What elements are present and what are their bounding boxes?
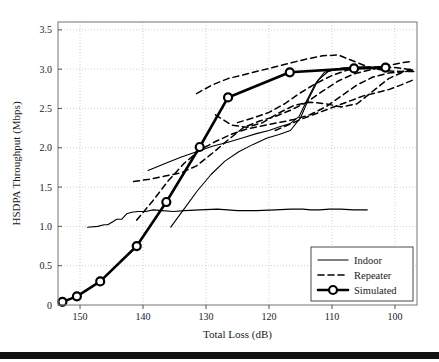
x-tick-label: 130 [199, 311, 214, 322]
page-bottom-rule [0, 352, 439, 359]
data-point-marker [196, 143, 204, 151]
legend-label-indoor: Indoor [354, 255, 382, 266]
data-point-marker [133, 242, 141, 250]
y-tick-label: 3.0 [40, 64, 53, 75]
data-point-marker [286, 68, 294, 76]
y-axis-title: HSDPA Throughput (Mbps) [10, 101, 23, 225]
x-tick-label: 110 [325, 311, 340, 322]
data-point-marker [382, 64, 390, 72]
hsdpa-throughput-chart: 15014013012011010000.51.01.52.02.53.03.5… [0, 0, 439, 362]
y-tick-label: 3.5 [40, 24, 53, 35]
x-tick-label: 120 [261, 311, 276, 322]
figure-container: 15014013012011010000.51.01.52.02.53.03.5… [0, 0, 439, 362]
data-point-marker [162, 198, 170, 206]
y-tick-label: 1.0 [40, 221, 53, 232]
x-tick-label: 150 [73, 311, 88, 322]
data-point-marker [73, 292, 81, 300]
y-tick-label: 2.5 [40, 103, 53, 114]
legend-label-simulated: Simulated [354, 285, 397, 296]
data-point-marker [224, 93, 232, 101]
x-axis-title: Total Loss (dB) [203, 328, 272, 341]
y-tick-label: 0.5 [40, 260, 53, 271]
x-tick-label: 140 [136, 311, 151, 322]
data-point-marker [96, 277, 104, 285]
y-tick-label: 2.0 [40, 142, 53, 153]
y-tick-label: 1.5 [40, 182, 53, 193]
legend-label-repeater: Repeater [354, 270, 392, 281]
y-tick-label: 0 [47, 300, 52, 311]
data-point-marker [350, 64, 358, 72]
legend-marker-simulated [329, 286, 337, 294]
x-tick-label: 100 [387, 311, 402, 322]
